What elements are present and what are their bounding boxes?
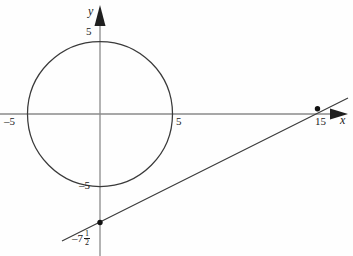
tick-label-y-positive-five: 5 — [86, 26, 92, 37]
figure-canvas: y x 5 –5 –5 5 15 –7 1 2 — [0, 0, 353, 256]
fraction-numerator: 1 — [84, 230, 90, 238]
tick-label-x-negative-five: –5 — [4, 116, 15, 127]
x-axis-label: x — [340, 114, 345, 126]
tangent-line — [62, 98, 348, 241]
mixed-number-whole-part: –7 — [72, 233, 83, 244]
point-marker-y-intercept — [97, 220, 102, 225]
tick-label-x-positive-five: 5 — [176, 116, 182, 127]
geometry-figure — [0, 0, 353, 256]
tick-label-x-fifteen: 15 — [315, 116, 326, 127]
fraction-denominator: 2 — [84, 239, 90, 247]
y-axis-label: y — [88, 5, 93, 17]
tick-label-y-negative-five: –5 — [79, 180, 90, 191]
label-y-intercept-mixed-number: –7 1 2 — [72, 230, 90, 247]
mixed-number-fraction: 1 2 — [84, 230, 90, 247]
y-axis-arrowhead — [95, 5, 106, 26]
point-marker-x-intercept — [315, 106, 320, 111]
